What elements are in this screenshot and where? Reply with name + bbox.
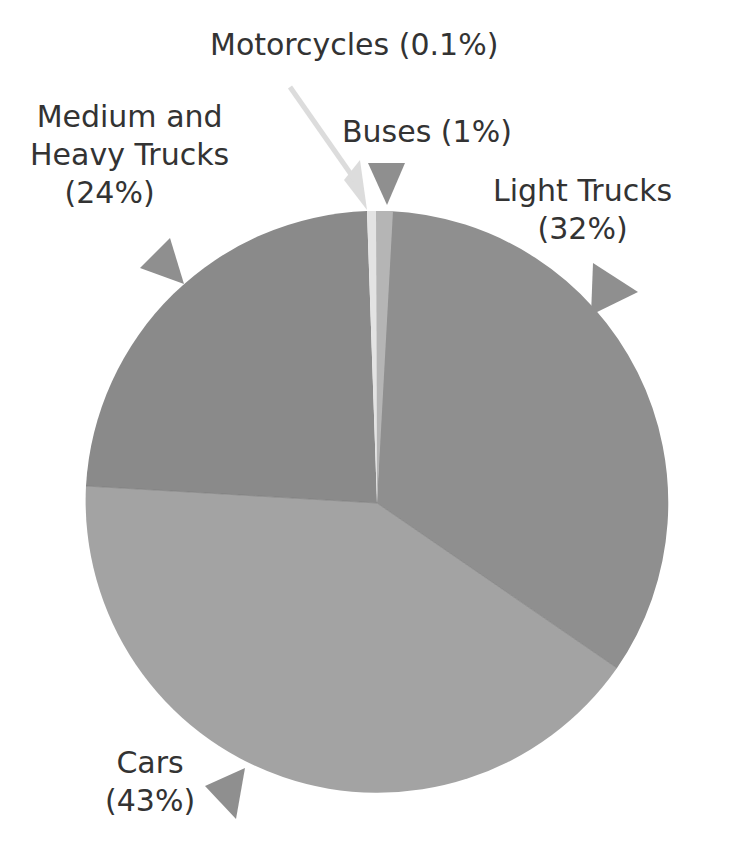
pointer-buses bbox=[368, 163, 405, 205]
label-cars-pct: (43%) bbox=[105, 782, 195, 820]
label-medium-heavy-trucks: Medium and Heavy Trucks (24%) bbox=[30, 98, 229, 212]
label-medium-heavy-line1: Medium and bbox=[30, 98, 229, 136]
label-medium-heavy-pct: (24%) bbox=[0, 174, 229, 212]
label-motorcycles-pct: (0.1%) bbox=[399, 27, 499, 62]
pointer-cars bbox=[205, 768, 245, 819]
label-cars: Cars (43%) bbox=[105, 744, 195, 820]
label-medium-heavy-line2: Heavy Trucks bbox=[30, 136, 229, 174]
label-light-trucks-pct: (32%) bbox=[493, 210, 672, 248]
label-buses-pct: (1%) bbox=[441, 114, 512, 149]
label-light-trucks: Light Trucks (32%) bbox=[493, 172, 672, 248]
label-motorcycles: Motorcycles (0.1%) bbox=[210, 26, 498, 64]
label-cars-name: Cars bbox=[105, 744, 195, 782]
pointer-light-trucks bbox=[591, 263, 638, 315]
slice-medium-heavy-trucks bbox=[86, 211, 377, 503]
label-motorcycles-name: Motorcycles bbox=[210, 27, 389, 62]
pointer-medium-heavy bbox=[140, 238, 184, 284]
label-buses-name: Buses bbox=[342, 114, 431, 149]
label-light-trucks-name: Light Trucks bbox=[493, 172, 672, 210]
label-buses: Buses (1%) bbox=[342, 113, 512, 151]
